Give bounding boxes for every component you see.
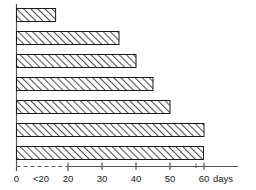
x-tick-label-60: 60 [199, 173, 210, 184]
x-tick-label-40: 40 [131, 173, 142, 184]
x-tick-label-20: 20 [63, 173, 74, 184]
bar-5 [17, 101, 171, 114]
bar-3 [17, 55, 137, 68]
x-axis-unit-label: days [213, 173, 233, 184]
x-tick-label-0: 0 [14, 173, 19, 184]
bar-6 [17, 124, 205, 137]
x-tick-label-50: 50 [165, 173, 176, 184]
x-tick-label-30: 30 [97, 173, 108, 184]
bar-4 [17, 78, 154, 91]
chart-canvas: 0 <20 20 30 40 50 60 days [0, 0, 256, 190]
x-tick-label-less-than-20: <20 [33, 173, 49, 184]
bar-7 [17, 147, 204, 160]
bar-1 [17, 9, 56, 22]
bar-2 [17, 32, 120, 45]
bar-chart-figure: 0 <20 20 30 40 50 60 days [0, 0, 256, 190]
chart-background [0, 0, 256, 190]
